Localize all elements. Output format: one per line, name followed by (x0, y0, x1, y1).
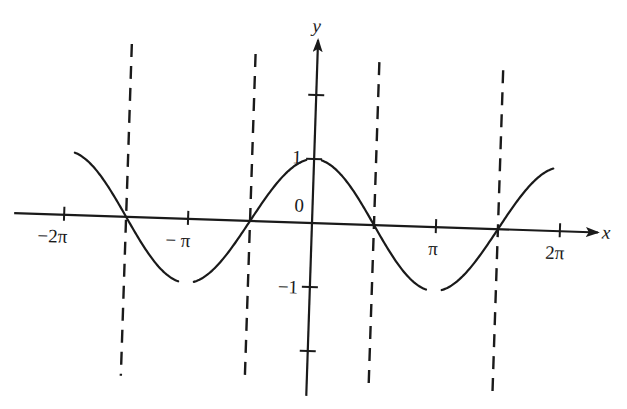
y-tick-1 (306, 159, 322, 160)
y-axis (306, 40, 318, 396)
dashed-line-3pi-2 (492, 70, 503, 394)
x-tick-label-pi: π (428, 238, 439, 259)
y-tick-label-1: 1 (292, 146, 302, 167)
y-tick-2 (308, 95, 324, 96)
y-axis-label: y (310, 15, 322, 36)
x-tick-label-neg-pi: − π (165, 229, 191, 251)
x-axis (14, 213, 598, 232)
x-axis-label: x (601, 222, 612, 243)
curve-segment-2 (194, 156, 306, 285)
y-tick-label-neg-1: −1 (278, 276, 299, 298)
y-tick-neg-2 (300, 351, 316, 352)
x-tick-label-2pi: 2π (545, 242, 565, 264)
y-tick-neg-1 (302, 287, 318, 288)
curve-segment-1 (71, 153, 183, 282)
curve-segment-3 (318, 161, 430, 290)
x-tick-label-neg-2pi: −2π (37, 225, 68, 247)
origin-label: 0 (294, 194, 304, 215)
cosine-graph: x y 0 −2π − π π 2π 1 −1 (0, 0, 627, 409)
